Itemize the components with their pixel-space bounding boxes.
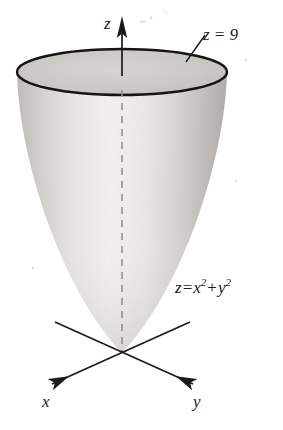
paraboloid-equation-label: z=x2+y2 <box>175 277 231 296</box>
equation-term2-exponent: 2 <box>225 276 231 288</box>
equation-equals: = <box>182 278 194 297</box>
equation-term1-base: x <box>193 278 201 297</box>
x-axis-label: x <box>42 393 50 410</box>
equation-lhs: z <box>175 278 182 297</box>
top-plane-label: z = 9 <box>203 26 238 43</box>
z-axis-label: z <box>104 15 111 32</box>
y-axis-label: y <box>193 393 201 410</box>
paraboloid-figure: z z = 9 z=x2+y2 x y <box>0 0 283 430</box>
equation-plus: + <box>206 278 218 297</box>
figure-canvas <box>0 0 283 430</box>
